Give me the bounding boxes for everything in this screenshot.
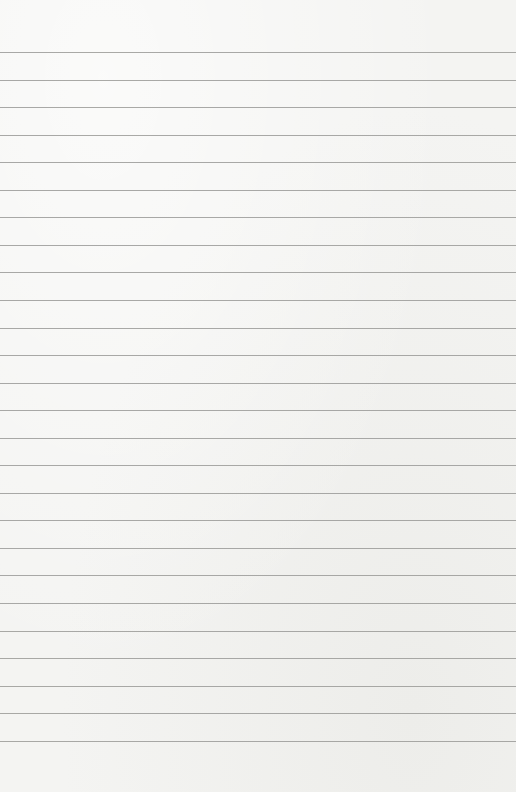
ruled-line xyxy=(0,162,516,163)
ruled-line xyxy=(0,686,516,687)
ruled-line xyxy=(0,328,516,329)
ruled-line xyxy=(0,217,516,218)
ruled-line xyxy=(0,355,516,356)
ruled-line xyxy=(0,52,516,53)
ruled-line xyxy=(0,493,516,494)
ruled-line xyxy=(0,80,516,81)
ruled-line xyxy=(0,520,516,521)
ruled-line xyxy=(0,575,516,576)
ruled-line xyxy=(0,658,516,659)
ruled-line xyxy=(0,300,516,301)
lined-paper-sheet xyxy=(0,0,516,792)
ruled-line xyxy=(0,135,516,136)
ruled-line xyxy=(0,383,516,384)
ruled-line xyxy=(0,107,516,108)
ruled-line xyxy=(0,631,516,632)
ruled-line xyxy=(0,713,516,714)
ruled-line xyxy=(0,741,516,742)
ruled-line xyxy=(0,410,516,411)
ruled-line xyxy=(0,190,516,191)
ruled-line xyxy=(0,272,516,273)
ruled-line xyxy=(0,548,516,549)
ruled-line xyxy=(0,438,516,439)
ruled-line xyxy=(0,603,516,604)
ruled-line xyxy=(0,245,516,246)
ruled-line xyxy=(0,465,516,466)
